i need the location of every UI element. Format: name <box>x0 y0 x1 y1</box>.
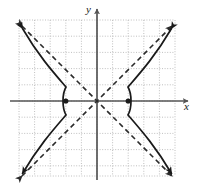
vertex-right <box>126 98 131 103</box>
x-axis-label: x <box>184 101 189 112</box>
coordinate-axes <box>10 9 188 180</box>
hyperbola-graph-figure: y x <box>0 0 199 188</box>
vertex-left <box>63 98 68 103</box>
y-axis-label: y <box>86 4 91 15</box>
graph-canvas <box>0 0 199 188</box>
